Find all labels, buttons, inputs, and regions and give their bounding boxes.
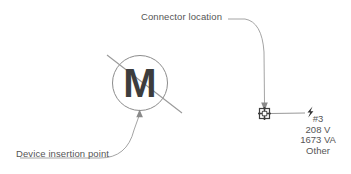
connector-location-leader-line — [228, 19, 265, 103]
connector-inner-square — [262, 111, 267, 116]
motor-symbol-letter: M — [113, 58, 167, 108]
connector-designation: #3 — [286, 114, 350, 125]
annotation-connector-location: Connector location — [141, 11, 222, 22]
diagram-canvas: M Connector location Device insertion po… — [0, 0, 351, 174]
connector-type: Other — [286, 146, 350, 157]
annotation-device-insertion-point: Device insertion point — [16, 148, 109, 159]
connector-node-symbol — [258, 107, 271, 120]
connector-info-block: #3 208 V 1673 VA Other — [286, 114, 350, 156]
